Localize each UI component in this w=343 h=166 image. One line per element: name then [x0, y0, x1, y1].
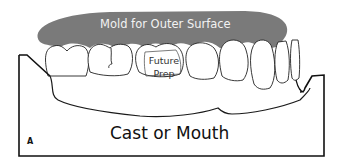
- cast-label: Cast or Mouth: [110, 123, 229, 143]
- tooth-incisor-1: [251, 40, 275, 89]
- future-prep-line1: Future: [146, 54, 182, 67]
- tooth-canine: [220, 40, 249, 81]
- tooth-molar-2: [88, 44, 133, 75]
- future-prep-line2: Prep: [146, 67, 182, 80]
- tooth-molar-1: [46, 45, 89, 76]
- future-prep-label: Future Prep: [146, 54, 182, 80]
- panel-letter: A: [27, 137, 33, 146]
- mold-label: Mold for Outer Surface: [100, 17, 231, 31]
- tooth-incisor-2: [275, 41, 289, 83]
- dental-mold-diagram: Mold for Outer Surface Future Prep Cast …: [0, 0, 343, 166]
- tooth-incisor-3: [291, 40, 300, 80]
- cast-inner-edge: [296, 80, 304, 92]
- tooth-premolar-2: [186, 43, 219, 80]
